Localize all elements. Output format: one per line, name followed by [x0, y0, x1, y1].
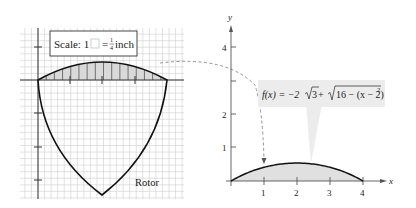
function-label-exponent: 2: [377, 86, 380, 93]
scale-unit: inch: [115, 38, 134, 50]
x-tick-label-2: 2: [294, 188, 299, 198]
y-tick-label-1: 1: [222, 143, 227, 153]
x-tick-label-1: 1: [261, 188, 266, 198]
function-label-plus: +: [318, 89, 324, 100]
x-axis-label: x: [388, 176, 393, 186]
y-axis-ticks: [231, 47, 236, 147]
y-axis-label: y: [227, 12, 232, 22]
function-label-sqrt3: 3: [312, 89, 317, 100]
x-axis-arrowhead: [380, 179, 387, 183]
connector-arrowhead: [262, 158, 267, 164]
y-tick-label-2: 2: [222, 110, 227, 120]
figure-canvas: Scale: 1 = 1 4 inch Rotor y x 1 2 4 1 2 …: [0, 0, 416, 208]
scale-label-prefix: Scale: 1: [54, 38, 89, 50]
grid-square-icon: [91, 39, 99, 48]
scale-fraction-numerator: 1: [110, 37, 113, 43]
callout-pointer: [306, 104, 322, 163]
function-label-fx: f(x) = −2: [262, 89, 299, 101]
y-tick-label-4: 4: [222, 43, 227, 53]
function-label: f(x) = −2 3 + 16 − (x − 2) 2: [262, 86, 384, 101]
scale-equals: =: [102, 38, 108, 50]
scale-fraction-denominator: 4: [110, 45, 113, 51]
rotor-label: Rotor: [135, 177, 159, 188]
x-tick-label-3: 3: [327, 188, 332, 198]
y-axis-arrowhead: [229, 25, 233, 32]
x-tick-label-4: 4: [360, 188, 365, 198]
